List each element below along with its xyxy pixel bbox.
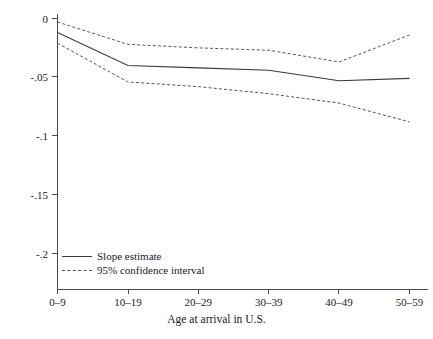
y-tick-label: -.2 bbox=[10, 248, 48, 259]
y-tick-label: -.15 bbox=[10, 189, 48, 200]
chart-legend: Slope estimate 95% confidence interval bbox=[62, 249, 205, 277]
x-tick-label: 10–19 bbox=[114, 297, 142, 308]
series-line-0 bbox=[58, 33, 410, 81]
y-tick-label: -.05 bbox=[10, 72, 48, 83]
x-tick-label: 50–59 bbox=[396, 297, 424, 308]
x-tick-label: 20–29 bbox=[185, 297, 213, 308]
series-line-1 bbox=[58, 22, 410, 62]
y-tick-marks bbox=[52, 19, 57, 254]
data-series-group bbox=[58, 22, 410, 122]
x-axis-title: Age at arrival in U.S. bbox=[0, 314, 433, 326]
series-line-2 bbox=[58, 43, 410, 122]
legend-key-dashed-line-icon bbox=[62, 265, 92, 275]
chart-figure: 0-.05-.1-.15-.2 0–910–1920–2930–3940–495… bbox=[0, 0, 433, 339]
x-tick-label: 30–39 bbox=[255, 297, 283, 308]
x-tick-label: 40–49 bbox=[325, 297, 353, 308]
plot-area bbox=[0, 0, 433, 339]
legend-key-solid-line-icon bbox=[62, 251, 92, 261]
legend-label-slope-estimate: Slope estimate bbox=[97, 249, 161, 263]
y-tick-label: -.1 bbox=[10, 131, 48, 142]
y-tick-label: 0 bbox=[10, 13, 48, 24]
legend-label-confidence-interval: 95% confidence interval bbox=[97, 263, 205, 277]
x-tick-label: 0–9 bbox=[49, 297, 66, 308]
legend-item-confidence-interval: 95% confidence interval bbox=[62, 263, 205, 277]
legend-item-slope-estimate: Slope estimate bbox=[62, 249, 205, 263]
